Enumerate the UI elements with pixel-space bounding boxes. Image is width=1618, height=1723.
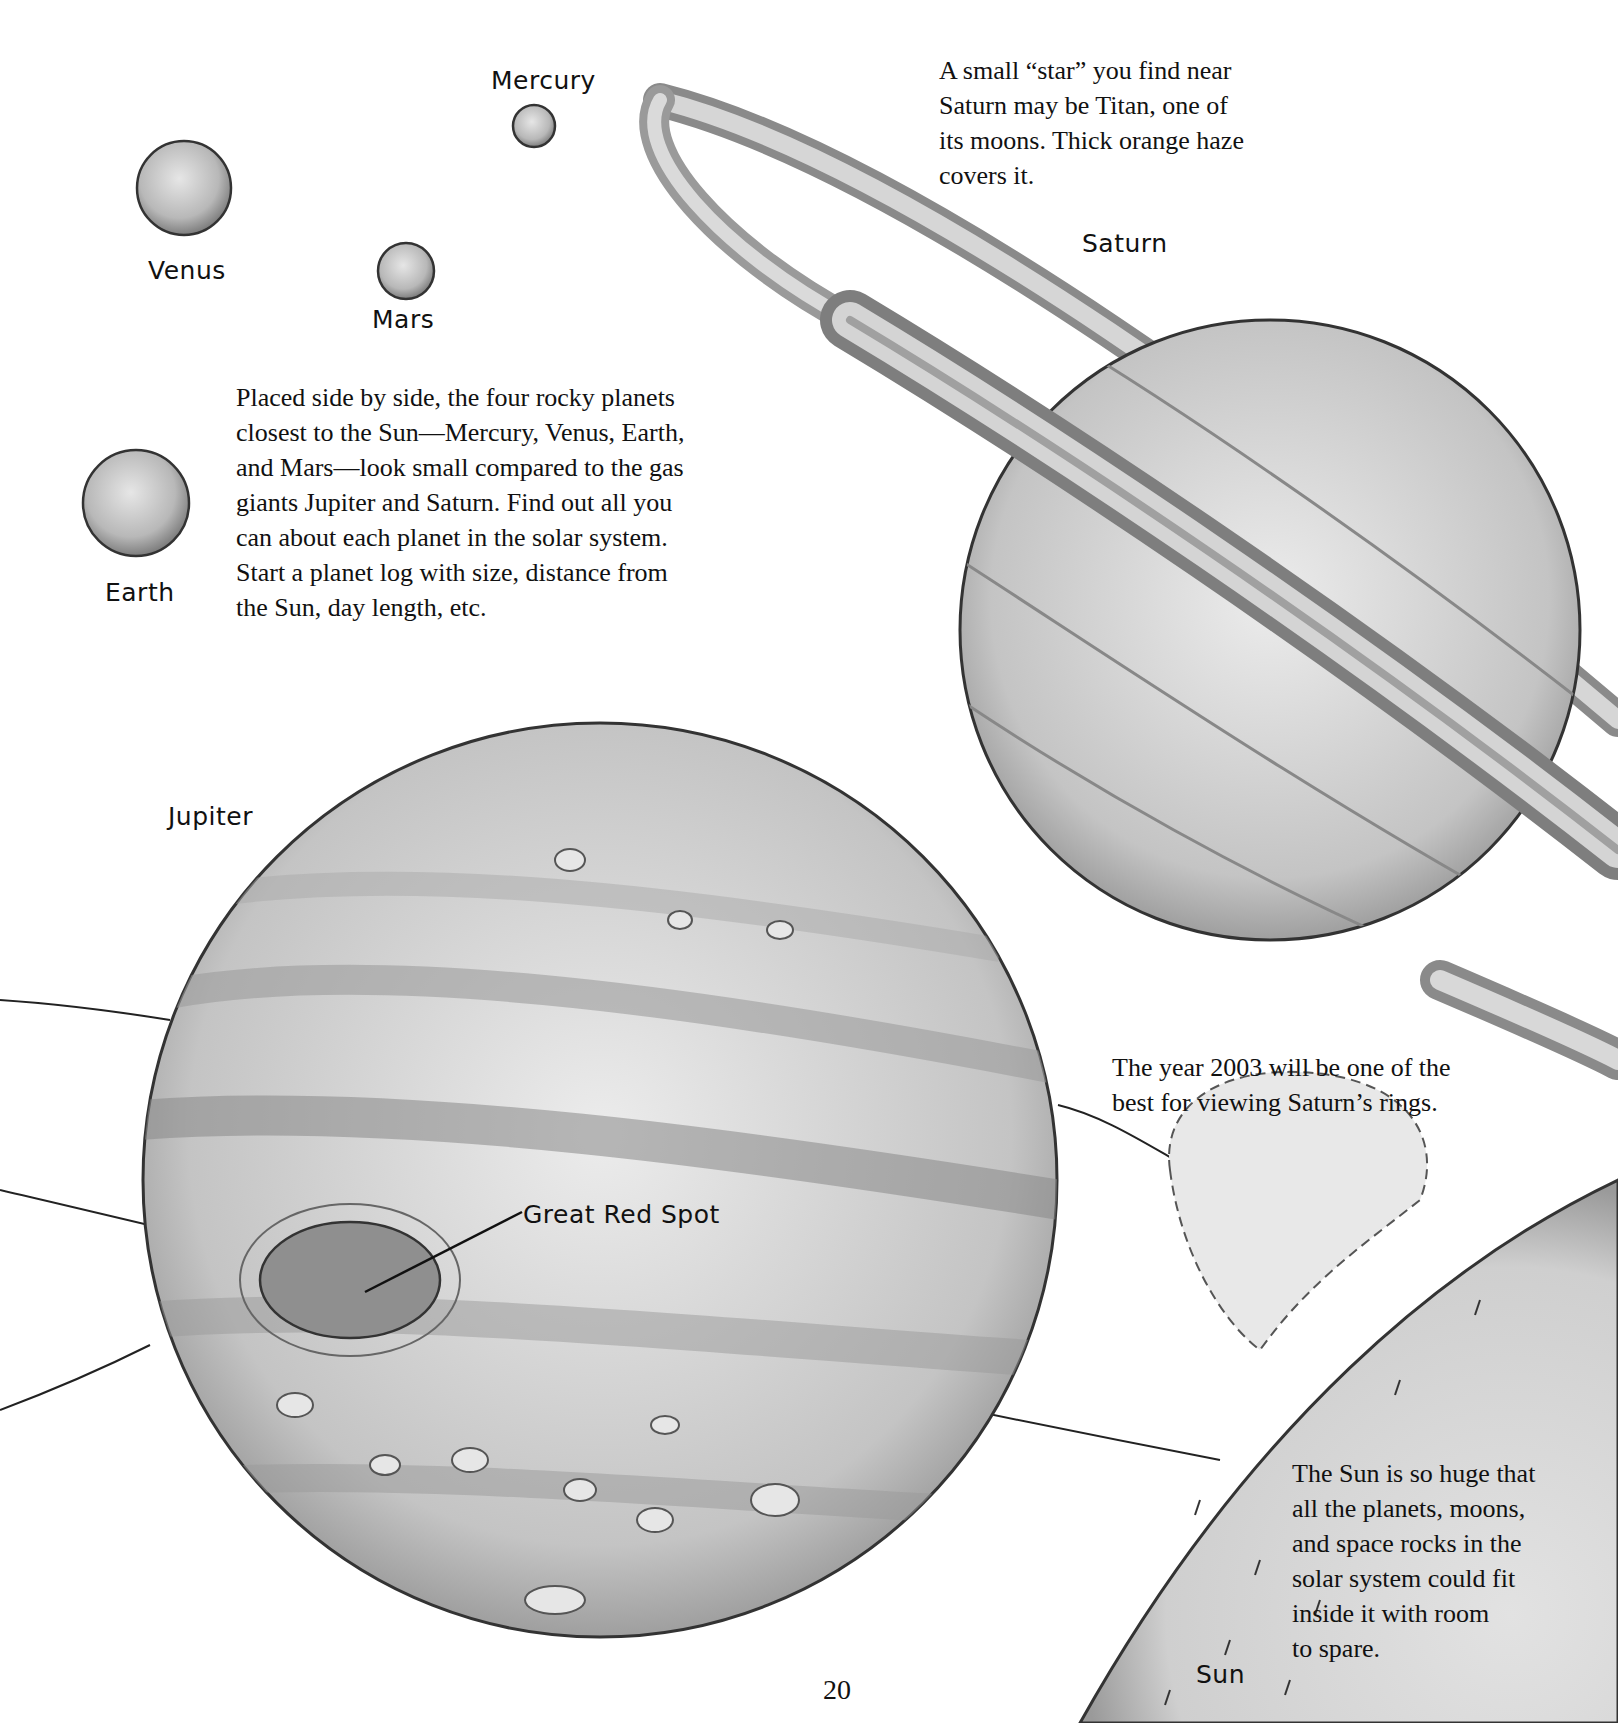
- sun-label: Sun: [1196, 1660, 1245, 1689]
- mercury-label: Mercury: [491, 66, 596, 95]
- mars-illustration: [378, 243, 434, 299]
- great-red-spot-label: Great Red Spot: [523, 1200, 720, 1229]
- mercury-illustration: [513, 105, 555, 147]
- jupiter-illustration: [140, 723, 1060, 1637]
- sun-caption: The Sun is so huge that all the planets,…: [1292, 1456, 1535, 1666]
- book-page: Mercury Venus Mars Earth Saturn Jupiter …: [0, 0, 1618, 1723]
- great-red-spot: [260, 1222, 440, 1338]
- saturn-rings-caption: The year 2003 will be one of the best fo…: [1112, 1050, 1451, 1120]
- earth-label: Earth: [105, 578, 175, 607]
- earth-illustration: [83, 450, 189, 556]
- rocky-planets-caption: Placed side by side, the four rocky plan…: [236, 380, 684, 625]
- saturn-label: Saturn: [1082, 229, 1168, 258]
- page-number: 20: [823, 1674, 851, 1706]
- jupiter-label: Jupiter: [168, 802, 253, 831]
- venus-illustration: [137, 141, 231, 235]
- titan-caption: A small “star” you find near Saturn may …: [939, 53, 1244, 193]
- venus-label: Venus: [148, 256, 226, 285]
- mars-label: Mars: [372, 305, 434, 334]
